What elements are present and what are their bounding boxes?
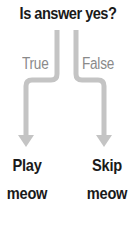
outcome-play-meow: Play meow — [6, 152, 49, 208]
true-label: True — [22, 55, 48, 73]
outcome-line-1: Skip — [86, 152, 129, 180]
outcome-line-2: meow — [86, 180, 129, 208]
true-arrowhead-icon — [18, 135, 34, 147]
false-label: False — [82, 55, 114, 73]
outcome-line-2: meow — [6, 180, 49, 208]
outcome-line-1: Play — [6, 152, 49, 180]
outcome-skip-meow: Skip meow — [86, 152, 129, 208]
false-arrowhead-icon — [96, 135, 112, 147]
true-branch-arrow — [26, 30, 57, 136]
false-branch-arrow — [76, 30, 104, 136]
